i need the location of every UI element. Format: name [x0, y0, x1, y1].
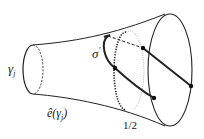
label-hat-e-gamma-j: ê(γj) — [47, 106, 67, 122]
top-edge — [33, 14, 165, 45]
point-lower-mid — [152, 96, 156, 100]
point-upper-mid — [141, 46, 145, 50]
left-ellipse-back — [33, 45, 43, 94]
chord-segment — [143, 48, 191, 86]
point-left-mid — [113, 66, 117, 70]
label-sigma-prime: σ′ — [92, 45, 101, 61]
tube-diagram: γj σ′ ê(γj) 1/2 — [0, 0, 204, 139]
label-gamma-j: γj — [8, 61, 16, 78]
mid-ellipse-front — [114, 32, 126, 110]
point-right-rim — [189, 84, 193, 88]
hidden-segment — [108, 36, 143, 48]
left-ellipse-front — [23, 45, 33, 94]
sigma-prime-curve — [104, 36, 154, 98]
label-one-half: 1/2 — [123, 119, 137, 131]
